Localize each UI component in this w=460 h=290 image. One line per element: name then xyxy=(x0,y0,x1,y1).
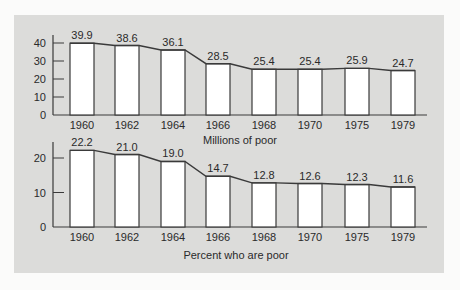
x-tick-label: 1979 xyxy=(391,119,415,131)
value-label: 39.9 xyxy=(71,29,92,41)
x-tick-label: 1964 xyxy=(161,231,185,243)
value-label: 11.6 xyxy=(393,173,414,185)
bar-1964 xyxy=(161,161,185,227)
x-tick-label: 1979 xyxy=(391,231,415,243)
chart-canvas: 01020304039.9196038.6196236.1196428.5196… xyxy=(0,0,460,290)
x-tick-label: 1966 xyxy=(206,231,230,243)
bar-1970 xyxy=(298,184,322,227)
value-label: 24.7 xyxy=(392,57,413,69)
y-tick-label: 40 xyxy=(34,37,46,49)
x-tick-label: 1966 xyxy=(206,119,230,131)
value-label: 36.1 xyxy=(162,36,183,48)
value-label: 19.0 xyxy=(162,147,183,159)
y-tick-label: 10 xyxy=(34,91,46,103)
x-tick-label: 1975 xyxy=(345,119,369,131)
bar-1966 xyxy=(206,64,230,115)
axis-caption: Percent who are poor xyxy=(183,249,289,261)
bar-1968 xyxy=(252,183,276,227)
bar-1962 xyxy=(115,46,139,115)
bar-1966 xyxy=(206,176,230,227)
y-tick-label: 20 xyxy=(34,152,46,164)
x-tick-label: 1970 xyxy=(298,119,322,131)
value-label: 25.9 xyxy=(346,54,367,66)
bar-1964 xyxy=(161,50,185,115)
chart-percent: 0102022.2196021.0196219.0196414.7196612.… xyxy=(34,136,427,261)
x-tick-label: 1964 xyxy=(161,119,185,131)
bar-1975 xyxy=(345,185,369,227)
bar-1968 xyxy=(252,69,276,115)
value-label: 12.6 xyxy=(299,170,320,182)
axis-caption: Millions of poor xyxy=(203,134,277,146)
value-label: 28.5 xyxy=(207,50,228,62)
x-tick-label: 1960 xyxy=(70,231,94,243)
value-label: 38.6 xyxy=(116,32,137,44)
value-label: 25.4 xyxy=(299,55,320,67)
x-tick-label: 1968 xyxy=(252,231,276,243)
y-tick-label: 0 xyxy=(40,109,46,121)
y-tick-label: 0 xyxy=(40,221,46,233)
x-tick-label: 1962 xyxy=(115,231,139,243)
bar-1962 xyxy=(115,155,139,227)
x-tick-label: 1968 xyxy=(252,119,276,131)
x-tick-label: 1975 xyxy=(345,231,369,243)
bar-1970 xyxy=(298,69,322,115)
chart-millions: 01020304039.9196038.6196236.1196428.5196… xyxy=(34,29,427,146)
value-label: 14.7 xyxy=(207,162,228,174)
value-label: 22.2 xyxy=(71,136,92,148)
y-tick-label: 20 xyxy=(34,73,46,85)
bar-1975 xyxy=(345,68,369,115)
bar-1960 xyxy=(70,150,94,227)
value-label: 25.4 xyxy=(253,55,274,67)
value-label: 21.0 xyxy=(116,141,137,153)
bar-1979 xyxy=(391,187,415,227)
x-tick-label: 1970 xyxy=(298,231,322,243)
bar-1979 xyxy=(391,71,415,115)
x-tick-label: 1962 xyxy=(115,119,139,131)
y-tick-label: 10 xyxy=(34,187,46,199)
x-tick-label: 1960 xyxy=(70,119,94,131)
value-label: 12.3 xyxy=(346,171,367,183)
y-tick-label: 30 xyxy=(34,55,46,67)
bar-1960 xyxy=(70,43,94,115)
value-label: 12.8 xyxy=(253,169,274,181)
